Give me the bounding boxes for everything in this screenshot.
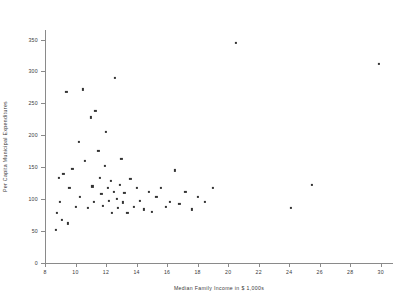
y-tick-label: 300: [28, 68, 38, 74]
data-point: [123, 192, 125, 194]
data-point: [84, 160, 86, 162]
data-point: [59, 201, 61, 203]
y-tick-mark: [41, 199, 45, 200]
data-point: [90, 116, 92, 118]
data-point: [62, 173, 64, 175]
data-point: [126, 212, 128, 214]
data-point: [143, 208, 145, 210]
data-point: [61, 218, 63, 220]
data-point: [67, 222, 69, 224]
x-tick-label: 20: [225, 269, 231, 275]
data-point: [94, 110, 96, 112]
y-axis-title: Per Capita Municipal Expenditures: [0, 30, 10, 263]
data-point: [169, 201, 171, 203]
y-tick-mark: [41, 40, 45, 41]
y-tick-mark: [41, 263, 45, 264]
data-point: [378, 63, 380, 65]
data-point: [178, 203, 180, 205]
x-tick-mark: [289, 263, 290, 267]
x-tick-label: 14: [133, 269, 139, 275]
data-point: [108, 200, 110, 202]
data-point: [197, 196, 199, 198]
data-point: [68, 187, 70, 189]
data-point: [102, 204, 104, 206]
data-point: [160, 187, 162, 189]
data-point: [174, 169, 176, 171]
y-tick-mark: [41, 135, 45, 136]
data-point: [82, 88, 84, 90]
data-point: [99, 177, 101, 179]
y-tick-mark: [41, 71, 45, 72]
data-point: [56, 212, 58, 214]
data-point: [290, 207, 292, 209]
data-point: [190, 208, 192, 210]
x-tick-mark: [76, 263, 77, 267]
x-tick-mark: [45, 263, 46, 267]
y-axis-line: [45, 30, 46, 263]
data-point: [93, 201, 95, 203]
data-point: [103, 165, 105, 167]
data-point: [151, 211, 153, 213]
x-tick-mark: [259, 263, 260, 267]
x-tick-label: 16: [164, 269, 170, 275]
data-point: [235, 42, 237, 44]
data-point: [129, 178, 131, 180]
data-point: [77, 141, 79, 143]
data-point: [100, 193, 102, 195]
x-tick-label: 10: [72, 269, 78, 275]
data-point: [106, 187, 108, 189]
y-tick-label: 0: [35, 260, 38, 266]
y-tick-label: 250: [28, 100, 38, 106]
y-tick-mark: [41, 103, 45, 104]
data-point: [119, 184, 121, 186]
data-point: [65, 91, 67, 93]
data-point: [139, 200, 141, 202]
y-tick-mark: [41, 231, 45, 232]
x-tick-mark: [167, 263, 168, 267]
data-point: [114, 77, 116, 79]
x-axis-title: Median Family Income in $ 1,000s: [45, 285, 393, 291]
data-point: [111, 212, 113, 214]
data-point: [117, 207, 119, 209]
data-point: [164, 206, 166, 208]
data-point: [79, 196, 81, 198]
data-point: [311, 184, 313, 186]
y-tick-label: 200: [28, 132, 38, 138]
scatter-plot-figure: 81012141618202224262830 0501001502002503…: [0, 0, 413, 304]
x-tick-label: 26: [317, 269, 323, 275]
x-tick-label: 12: [103, 269, 109, 275]
y-tick-label: 50: [32, 228, 38, 234]
data-point: [116, 198, 118, 200]
x-tick-label: 24: [286, 269, 292, 275]
y-tick-mark: [41, 167, 45, 168]
x-tick-mark: [198, 263, 199, 267]
data-point: [71, 167, 73, 169]
x-tick-label: 22: [255, 269, 261, 275]
data-point: [91, 185, 93, 187]
data-point: [204, 201, 206, 203]
data-point: [110, 180, 112, 182]
data-point: [87, 207, 89, 209]
x-tick-mark: [381, 263, 382, 267]
x-tick-label: 28: [347, 269, 353, 275]
data-point: [184, 190, 186, 192]
x-tick-mark: [350, 263, 351, 267]
x-tick-mark: [320, 263, 321, 267]
x-tick-mark: [106, 263, 107, 267]
plot-area: [45, 30, 393, 263]
y-tick-label: 350: [28, 37, 38, 43]
x-tick-mark: [137, 263, 138, 267]
data-point: [74, 206, 76, 208]
x-tick-label: 18: [194, 269, 200, 275]
y-tick-label: 150: [28, 164, 38, 170]
data-point: [120, 158, 122, 160]
x-tick-mark: [228, 263, 229, 267]
x-axis-line: [45, 263, 393, 264]
data-point: [55, 229, 57, 231]
data-point: [135, 187, 137, 189]
data-point: [58, 177, 60, 179]
data-point: [105, 131, 107, 133]
y-tick-label: 100: [28, 196, 38, 202]
data-point: [132, 206, 134, 208]
x-tick-label: 8: [43, 269, 46, 275]
